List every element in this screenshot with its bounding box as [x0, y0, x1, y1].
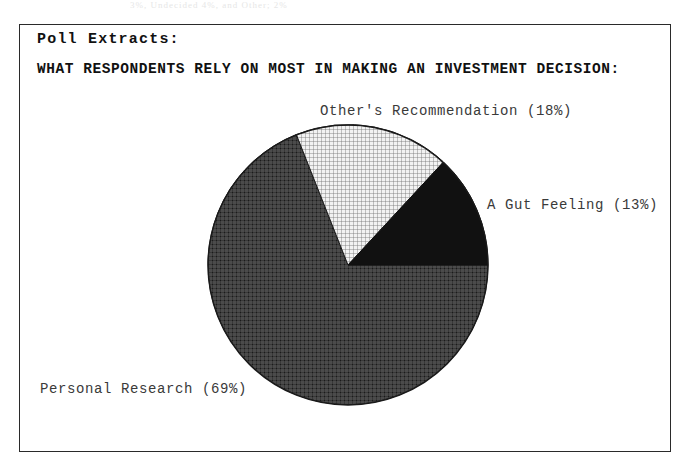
scan-remnant-text: 3%, Undecided 4%, and Other; 2% — [130, 0, 460, 11]
poll-extract-frame: Poll Extracts: WHAT RESPONDENTS RELY ON … — [19, 24, 671, 452]
pie-label-personal-research: Personal Research (69%) — [40, 381, 247, 397]
pie-label-a-gut-feeling: A Gut Feeling (13%) — [487, 197, 658, 213]
pie-chart-svg — [189, 101, 489, 413]
pie-label-others-recommendation: Other's Recommendation (18%) — [320, 103, 572, 119]
pie-chart: Other's Recommendation (18%) A Gut Feeli… — [20, 25, 672, 453]
